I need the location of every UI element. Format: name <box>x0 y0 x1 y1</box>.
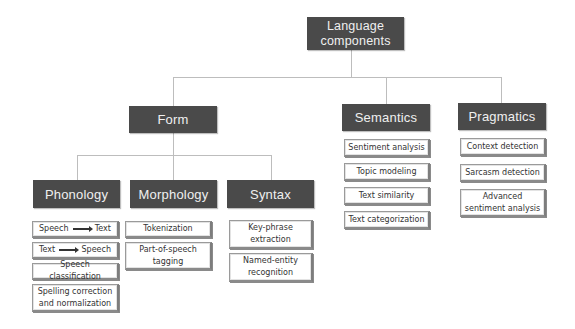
right-arrow-icon <box>73 228 91 230</box>
connector-form-up <box>173 77 174 106</box>
node-phonology: Phonology <box>33 180 120 208</box>
leaf-sentiment-analysis: Sentiment analysis <box>344 139 430 157</box>
node-form: Form <box>129 106 217 133</box>
leaf-named-entity-recognition: Named-entity recognition <box>229 253 313 282</box>
leaf-label: Advanced sentiment analysis <box>464 191 541 215</box>
leaf-label: Topic modeling <box>357 166 417 178</box>
leaf-context-detection: Context detection <box>460 138 546 156</box>
connector-phonology-up <box>77 155 78 180</box>
node-pragmatics: Pragmatics <box>458 103 546 130</box>
node-label: Language components <box>321 19 391 49</box>
leaf-pos-tagging: Part-of-speech tagging <box>125 242 212 270</box>
right-arrow-icon <box>59 249 77 251</box>
connector-semantics-up <box>386 77 387 104</box>
leaf-sarcasm-detection: Sarcasm detection <box>460 164 546 182</box>
leaf-label: Spelling correction and normalization <box>36 286 114 310</box>
node-semantics: Semantics <box>342 104 430 131</box>
leaf-label: Text categorization <box>349 214 425 226</box>
leaf-label: Named-entity recognition <box>241 255 301 279</box>
connector-level1-horizontal <box>173 77 502 78</box>
connector-morphology-up <box>173 155 174 180</box>
node-label: Pragmatics <box>468 109 535 124</box>
leaf-label: Sarcasm detection <box>465 167 540 179</box>
leaf-from: Text <box>39 244 55 256</box>
leaf-label: Context detection <box>467 141 539 153</box>
connector-syntax-up <box>271 155 272 180</box>
connector-form-down <box>173 133 174 155</box>
leaf-advanced-sentiment-analysis: Advanced sentiment analysis <box>460 189 546 217</box>
leaf-text-categorization: Text categorization <box>344 211 430 229</box>
connector-pragmatics-up <box>501 77 502 103</box>
node-label: Form <box>157 112 188 127</box>
connector-root-down <box>351 50 352 77</box>
leaf-text-to-speech: Text Speech <box>32 242 119 259</box>
leaf-speech-classification: Speech classification <box>32 263 119 280</box>
leaf-label: Part-of-speech tagging <box>137 244 199 268</box>
leaf-topic-modeling: Topic modeling <box>344 163 430 181</box>
leaf-to: Speech <box>82 244 111 256</box>
leaf-label: Speech classification <box>36 259 114 283</box>
leaf-key-phrase-extraction: Key-phrase extraction <box>229 220 313 249</box>
node-label: Morphology <box>139 187 209 202</box>
leaf-to: Text <box>95 223 111 235</box>
node-morphology: Morphology <box>130 180 217 208</box>
leaf-text-similarity: Text similarity <box>344 187 430 205</box>
leaf-spelling-correction: Spelling correction and normalization <box>32 284 119 312</box>
leaf-tokenization: Tokenization <box>125 221 212 238</box>
leaf-label: Key-phrase extraction <box>243 222 299 246</box>
node-label: Semantics <box>355 110 418 125</box>
leaf-label: Tokenization <box>143 223 192 235</box>
node-syntax: Syntax <box>227 180 314 208</box>
leaf-from: Speech <box>39 223 68 235</box>
node-label: Phonology <box>45 187 108 202</box>
leaf-label: Sentiment analysis <box>348 142 424 154</box>
leaf-label: Text similarity <box>359 190 415 202</box>
node-language-components: Language components <box>307 17 404 50</box>
node-label: Syntax <box>250 187 291 202</box>
connector-level2-horizontal <box>77 155 272 156</box>
leaf-speech-to-text: Speech Text <box>32 221 119 238</box>
